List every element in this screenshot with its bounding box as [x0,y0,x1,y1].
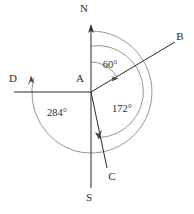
label-angle-284: 284° [47,107,67,118]
label-north: N [80,2,88,14]
label-angle-172: 172° [112,103,132,114]
label-angle-60: 60° [103,59,118,70]
label-vertex-a: A [76,72,84,84]
label-south: S [86,191,92,203]
label-point-c: C [108,170,115,182]
bearing-diagram: N S A B C D 60° 172° 284° [0,0,194,214]
bearing-diagram-svg: N S A B C D 60° 172° 284° [0,0,194,214]
ray-a-to-c [91,92,107,168]
label-point-b: B [176,30,183,42]
label-point-d: D [9,72,17,84]
